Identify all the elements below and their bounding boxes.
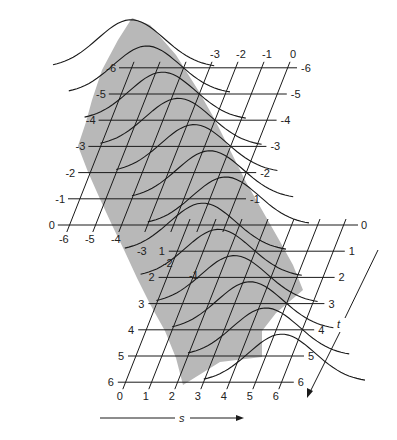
s-axis-arrow: s bbox=[100, 412, 244, 424]
t-label-right: -3 bbox=[270, 140, 280, 152]
t-label-left: 0 bbox=[49, 219, 55, 231]
s-label-bottom: -2 bbox=[163, 257, 173, 269]
s-label-top: -3 bbox=[210, 48, 220, 60]
s-label-bottom: -6 bbox=[59, 233, 69, 245]
t-label-right: -2 bbox=[260, 167, 270, 179]
t-label-right: 3 bbox=[328, 298, 334, 310]
s-label-bottom: 0 bbox=[117, 390, 123, 402]
s-label-bottom: 5 bbox=[247, 390, 253, 402]
t-label-right: 5 bbox=[308, 350, 314, 362]
s-label-bottom: 1 bbox=[143, 390, 149, 402]
s-label-bottom: -5 bbox=[85, 233, 95, 245]
s-label-bottom: 3 bbox=[195, 390, 201, 402]
t-label-left: 1 bbox=[159, 245, 165, 257]
t-label-left: 5 bbox=[118, 350, 124, 362]
s-label-bottom: 4 bbox=[221, 390, 227, 402]
t-label-right: 4 bbox=[318, 324, 324, 336]
t-label-left: -4 bbox=[86, 114, 96, 126]
t-label-right: -6 bbox=[301, 62, 311, 74]
s-label-bottom: -4 bbox=[111, 233, 121, 245]
t-label-left: 2 bbox=[148, 271, 154, 283]
s-label-top: -2 bbox=[236, 48, 246, 60]
s-axis-label: s bbox=[179, 412, 185, 424]
t-label-right: -1 bbox=[250, 193, 260, 205]
t-label-left: 6 bbox=[108, 376, 114, 388]
s-label-top: -1 bbox=[262, 48, 272, 60]
t-label-right: -5 bbox=[291, 88, 301, 100]
t-label-right: -4 bbox=[281, 114, 291, 126]
t-label-left: 4 bbox=[128, 324, 134, 336]
s-label-bottom: -1 bbox=[189, 269, 199, 281]
traveling-wave-diagram: -6-5-4-3-2-10-6-5-4-3-2-1-3-2-10-6-5-4-3… bbox=[0, 0, 397, 440]
s-label-bottom: -3 bbox=[137, 245, 147, 257]
t-label-left: -1 bbox=[55, 193, 65, 205]
t-label-right: 1 bbox=[349, 245, 355, 257]
t-label-left: -3 bbox=[76, 140, 86, 152]
t-label-right: 6 bbox=[298, 376, 304, 388]
t-label-right: 0 bbox=[361, 219, 367, 231]
s-label-bottom: 2 bbox=[169, 390, 175, 402]
t-label-left: 3 bbox=[138, 298, 144, 310]
t-label-left: -2 bbox=[65, 167, 75, 179]
s-label-bottom: 6 bbox=[273, 390, 279, 402]
t-label-left: -5 bbox=[96, 88, 106, 100]
t-label-left: -6 bbox=[106, 62, 116, 74]
s-label-top: 0 bbox=[290, 48, 296, 60]
t-axis-label: t bbox=[337, 318, 341, 330]
t-label-right: 2 bbox=[339, 271, 345, 283]
